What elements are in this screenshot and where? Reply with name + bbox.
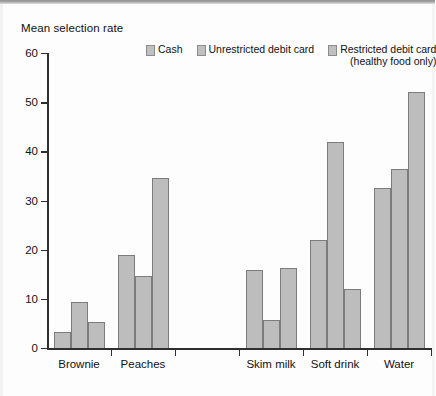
y-axis-tick-label: 60 <box>8 47 38 59</box>
bar <box>327 142 344 349</box>
x-axis-tick <box>303 348 304 356</box>
bar <box>391 169 408 348</box>
bar <box>374 188 391 348</box>
bar-groups <box>47 53 431 348</box>
bar <box>88 322 105 348</box>
scan-edge-top <box>0 0 435 4</box>
bar <box>118 255 135 348</box>
y-axis-tick <box>41 348 47 349</box>
bar <box>263 320 280 348</box>
bar <box>54 332 71 348</box>
bar <box>280 268 297 348</box>
bar-group <box>111 53 175 348</box>
x-axis-tick <box>175 348 176 356</box>
bar <box>310 240 327 348</box>
x-axis-tick-label: Brownie <box>58 358 100 370</box>
y-axis-title: Mean selection rate <box>21 22 123 34</box>
bar-group <box>303 53 367 348</box>
plot-area: BrowniePeachesSkim milkSoft drinkWater <box>47 53 431 348</box>
bar <box>344 289 361 348</box>
x-axis-tick <box>367 348 368 356</box>
bar <box>71 302 88 348</box>
x-axis-tick-label: Water <box>384 358 414 370</box>
bar <box>152 178 169 348</box>
y-axis-tick-label: 30 <box>8 195 38 207</box>
scan-edge-left <box>0 4 3 396</box>
y-axis-tick-label: 50 <box>8 96 38 108</box>
bar <box>408 92 425 348</box>
x-axis-tick-label: Soft drink <box>311 358 360 370</box>
bar-group <box>47 53 111 348</box>
y-axis-tick-label: 40 <box>8 145 38 157</box>
bar-group <box>239 53 303 348</box>
x-axis-tick <box>431 348 432 356</box>
bar <box>135 276 152 348</box>
y-axis-tick-label: 10 <box>8 293 38 305</box>
x-axis-tick <box>111 348 112 356</box>
x-axis-tick-label: Peaches <box>121 358 166 370</box>
bar-group <box>367 53 431 348</box>
y-axis-tick-labels: 0102030405060 <box>8 53 38 348</box>
y-axis-tick-label: 0 <box>8 342 38 354</box>
x-axis-tick-label: Skim milk <box>246 358 295 370</box>
y-axis-tick-label: 20 <box>8 244 38 256</box>
bar <box>246 270 263 348</box>
x-axis-tick <box>239 348 240 356</box>
